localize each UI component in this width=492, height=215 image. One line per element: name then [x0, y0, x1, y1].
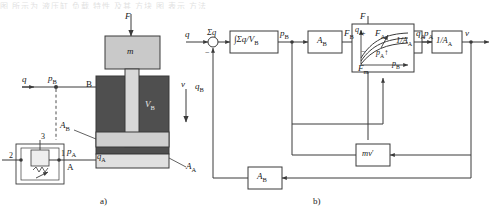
inv-aa-1-base: 1/A: [396, 35, 408, 45]
curve-x-sub: B: [396, 64, 400, 70]
signal-fb-sub: B: [350, 33, 354, 40]
label-pressure-pb: pB: [48, 74, 57, 85]
label-sum-output: Σq: [207, 28, 216, 37]
signal-pa-sub: A: [429, 33, 434, 40]
inv-aa-2-base: 1/A: [436, 35, 448, 45]
pressure-b-node: [54, 85, 58, 89]
label-curve-y-axis: qA: [355, 26, 363, 36]
label-valve-port-2: 2: [9, 152, 13, 160]
label-sum-left-minus: −: [205, 49, 210, 57]
label-signal-pb: pB: [280, 29, 289, 40]
label-curve-parameter: pA↑: [376, 49, 388, 59]
label-block-mv: mv′: [362, 149, 374, 158]
valve-flow-arrow: [36, 172, 48, 178]
block-ab-sub: B: [323, 40, 327, 47]
feedback-qb-sub: B: [200, 86, 204, 93]
label-pressure-pa: pA: [67, 147, 76, 158]
label-flow-qa: qA: [97, 152, 106, 163]
label-sum-right-minus: −: [361, 48, 366, 56]
pressure-pa-sub: A: [72, 151, 77, 158]
label-signal-pa: pA: [424, 29, 433, 40]
label-port-a: A: [67, 163, 74, 172]
label-force-f: F: [125, 12, 131, 21]
label-velocity-v: v: [181, 80, 185, 89]
label-signal-fa: FA: [375, 29, 385, 40]
label-block-ab-feedback: AB: [257, 172, 267, 183]
curve-param-arrow: ↑: [384, 48, 388, 57]
block-mv-base: mv: [362, 148, 372, 158]
flow-qa-sub: A: [101, 157, 105, 163]
caption-a: a): [100, 196, 107, 206]
schematic-cylinder: [2, 14, 186, 184]
sum-junction-left: [208, 37, 218, 47]
curve-y-sub: A: [359, 30, 363, 36]
pressure-pb-sub: B: [53, 78, 57, 85]
area-ab-sub: B: [66, 125, 70, 132]
label-valve-port-3: 3: [41, 133, 45, 141]
label-area-aa: AA: [186, 162, 196, 173]
integrator-sub: B: [254, 39, 258, 46]
signal-pb-sub: B: [285, 33, 289, 40]
label-signal-qa: qA: [416, 29, 425, 40]
block-ab-fb-sub: B: [263, 176, 267, 183]
valve-spool-box: [31, 150, 49, 166]
label-block-inv-aa-2: 1/AA: [436, 36, 452, 47]
label-port-b: B: [86, 80, 92, 89]
feedback-fm-sub: m: [364, 68, 369, 75]
label-signal-fb: FB: [344, 29, 354, 40]
area-b-leader: [74, 130, 96, 139]
label-valve-port-1: 1: [61, 150, 65, 158]
label-curve-x-axis: pB: [392, 60, 400, 70]
volume-vb-sub: B: [151, 104, 155, 111]
label-block-integrator: ∫Σq/VB: [234, 35, 259, 46]
label-volume-vb: VB: [145, 100, 155, 111]
integrator-base: ∫Σq/V: [234, 34, 254, 44]
block-diagram-tail: [213, 31, 489, 189]
label-output-v: v: [465, 29, 469, 38]
inv-aa-2-sub: A: [448, 41, 452, 47]
area-a-leader: [169, 158, 186, 167]
label-input-q: q: [185, 30, 190, 39]
valve-spring: [33, 167, 48, 172]
label-feedback-fm: Fm: [358, 64, 369, 75]
cylinder-base-cap: [96, 154, 169, 168]
caption-b: b): [313, 196, 321, 206]
area-aa-sub: A: [192, 166, 197, 173]
label-block-ab: AB: [317, 36, 327, 47]
label-area-ab: AB: [60, 121, 70, 132]
signal-qa-sub: A: [421, 33, 426, 40]
label-mass-m: m: [127, 47, 134, 56]
label-block-inv-aa-1: 1/AA: [396, 36, 412, 47]
piston-head: [96, 132, 169, 147]
label-flow-q: q: [22, 75, 27, 84]
figure-container: 图 所示为 液压缸 负载 特性 及其 方块 图 表示 方法: [0, 0, 492, 215]
signal-fa-sub: A: [381, 33, 386, 40]
block-mv-prime: ′: [372, 149, 374, 158]
inv-aa-1-sub: A: [408, 41, 412, 47]
valve-port-1-node: [57, 158, 61, 162]
label-input-f: F: [360, 12, 366, 21]
label-feedback-qb: qB: [195, 82, 204, 93]
